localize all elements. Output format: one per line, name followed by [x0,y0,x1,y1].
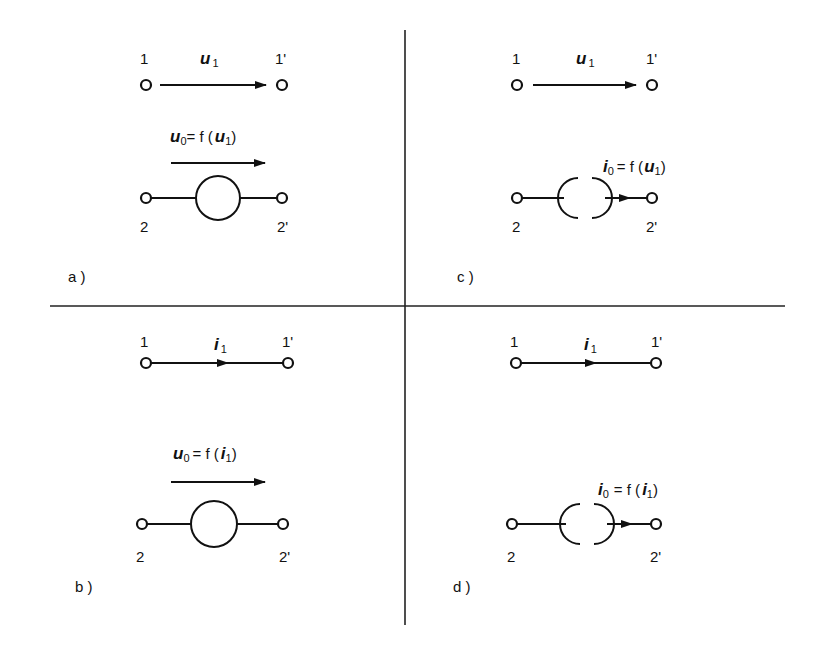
input-quantity-label: i1 [214,335,227,355]
terminal-2prime [651,519,661,529]
terminal-2-label: 2 [140,218,148,235]
terminal-1prime-label: 1' [282,333,293,350]
panel-label-a: a ) [68,268,86,285]
terminal-1prime [277,80,287,90]
terminal-1-label: 1 [140,333,148,350]
input-quantity-label: u1 [200,49,219,69]
terminal-1prime-label: 1' [275,50,286,67]
terminal-1prime [283,358,293,368]
output-equation: i0= f (i1) [598,480,658,500]
terminal-2-label: 2 [512,218,520,235]
terminal-2prime [278,519,288,529]
terminal-2prime [277,193,287,203]
panel-d: 1 1' i1 i0= f (i1) 2 2' d ) [453,333,662,595]
terminal-1prime [647,80,657,90]
input-quantity-label: u1 [576,49,595,69]
terminal-1 [141,358,151,368]
voltage-source-icon [191,501,237,547]
panel-c: 1 1' u1 i0= f (u1) 2 2' c ) [457,49,666,285]
terminal-1-label: 1 [510,333,518,350]
terminal-1prime-label: 1' [646,50,657,67]
panel-label-c: c ) [457,268,474,285]
terminal-2prime-label: 2' [646,218,657,235]
panel-label-d: d ) [453,578,471,595]
terminal-1prime [651,358,661,368]
panel-label-b: b ) [75,578,93,595]
terminal-2-label: 2 [136,548,144,565]
output-equation: u0= f (u1) [170,127,236,147]
terminal-2-label: 2 [507,548,515,565]
terminal-1-label: 1 [140,50,148,67]
terminal-1-label: 1 [512,50,520,67]
output-equation: i0= f (u1) [603,157,666,177]
panel-a: 1 1' u1 u0= f (u1) 2 2' a ) [68,49,288,285]
terminal-2prime [647,193,657,203]
terminal-2prime-label: 2' [279,548,290,565]
terminal-1 [141,80,151,90]
terminal-2 [512,193,522,203]
controlled-sources-diagram: 1 1' u1 u0= f (u1) 2 2' a ) 1 1' u1 i0= [0,0,817,651]
terminal-1 [512,80,522,90]
voltage-source-icon [196,176,240,220]
terminal-2 [141,193,151,203]
terminal-2 [507,519,517,529]
terminal-2prime-label: 2' [650,548,661,565]
terminal-2prime-label: 2' [277,218,288,235]
output-equation: u0= f (i1) [173,444,237,464]
terminal-1prime-label: 1' [651,333,662,350]
terminal-2 [137,519,147,529]
input-quantity-label: i1 [584,335,597,355]
panel-b: 1 1' i1 u0= f (i1) 2 2' b ) [75,333,293,595]
terminal-1 [511,358,521,368]
